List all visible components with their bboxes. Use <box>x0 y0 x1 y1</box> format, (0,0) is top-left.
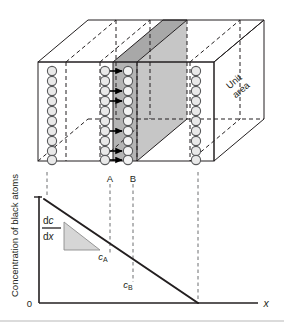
atom <box>191 86 200 95</box>
atom <box>191 96 200 105</box>
atom <box>191 76 200 85</box>
plane-b-label: B <box>130 173 136 184</box>
y-axis-label: Concentration of black atoms <box>9 174 20 297</box>
atom <box>47 96 56 105</box>
atom <box>191 106 200 115</box>
atom <box>123 146 132 155</box>
atom <box>191 155 200 164</box>
atom <box>47 136 56 145</box>
atom <box>191 126 200 135</box>
atom <box>47 66 56 75</box>
plane-a-label: A <box>107 173 114 184</box>
atom <box>100 126 109 135</box>
atom <box>123 136 132 145</box>
atom <box>100 86 109 95</box>
atom <box>191 136 200 145</box>
gradient-denominator: dx <box>43 231 55 242</box>
atom <box>123 126 132 135</box>
atom <box>100 96 109 105</box>
atom <box>47 126 56 135</box>
atom <box>47 106 56 115</box>
atom <box>123 76 132 85</box>
atom <box>47 116 56 125</box>
atom <box>100 116 109 125</box>
atom <box>123 155 132 164</box>
atom <box>123 86 132 95</box>
atom <box>100 76 109 85</box>
atom <box>191 116 200 125</box>
figure-canvas: Unit area A B Concentration of black ato… <box>0 0 284 325</box>
atom <box>123 106 132 115</box>
y-axis-zero-label: 0 <box>27 298 32 309</box>
atom <box>123 96 132 105</box>
atom <box>191 66 200 75</box>
atom <box>47 76 56 85</box>
atom <box>100 106 109 115</box>
atom <box>123 66 132 75</box>
diffusion-figure: Unit area A B Concentration of black ato… <box>0 0 284 325</box>
atom <box>47 146 56 155</box>
atom <box>100 66 109 75</box>
gradient-numerator: dc <box>43 215 54 226</box>
atom <box>191 146 200 155</box>
atom <box>100 155 109 164</box>
x-axis-label: x <box>262 297 269 309</box>
atom <box>123 116 132 125</box>
atom <box>47 86 56 95</box>
atom <box>100 146 109 155</box>
atom <box>100 136 109 145</box>
atom <box>47 155 56 164</box>
